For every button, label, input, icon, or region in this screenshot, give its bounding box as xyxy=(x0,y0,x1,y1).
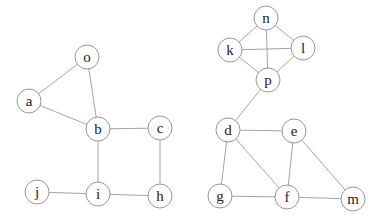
node-label: m xyxy=(347,191,359,207)
node-p: p xyxy=(256,68,280,92)
node-n: n xyxy=(254,6,278,30)
node-label: j xyxy=(34,184,39,200)
node-label: c xyxy=(157,120,164,136)
nodes-layer: oabcjihnklpdegfm xyxy=(17,6,365,211)
node-k: k xyxy=(218,38,242,62)
node-label: h xyxy=(156,188,164,204)
node-label: k xyxy=(226,42,234,58)
node-f: f xyxy=(275,185,299,209)
node-label: b xyxy=(94,121,102,137)
node-label: n xyxy=(262,10,270,26)
node-a: a xyxy=(17,89,41,113)
edge-e-m xyxy=(294,131,353,199)
node-label: g xyxy=(216,188,224,204)
node-b: b xyxy=(86,117,110,141)
node-j: j xyxy=(25,180,49,204)
node-label: e xyxy=(291,123,298,139)
edge-d-f xyxy=(228,130,287,197)
node-label: p xyxy=(264,72,272,88)
node-l: l xyxy=(291,36,315,60)
node-label: i xyxy=(96,186,100,202)
node-d: d xyxy=(216,118,240,142)
node-label: o xyxy=(83,49,91,65)
node-c: c xyxy=(148,116,172,140)
node-i: i xyxy=(86,182,110,206)
node-g: g xyxy=(208,184,232,208)
node-label: a xyxy=(26,93,33,109)
node-e: e xyxy=(282,119,306,143)
node-o: o xyxy=(75,45,99,69)
graph-diagram: oabcjihnklpdegfm xyxy=(0,0,385,217)
node-m: m xyxy=(341,187,365,211)
node-label: d xyxy=(224,122,232,138)
node-label: l xyxy=(301,40,305,56)
node-label: f xyxy=(285,189,290,205)
node-h: h xyxy=(148,184,172,208)
